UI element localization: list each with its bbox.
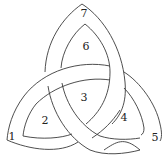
top-lobe-outer-left (45, 4, 82, 72)
region-label-7: 7 (81, 7, 88, 20)
region-label-6: 6 (83, 40, 90, 53)
region-label-5: 5 (152, 131, 159, 144)
region-label-1: 1 (9, 130, 16, 143)
knot-bands (7, 4, 162, 154)
top-lobe-inner-left (61, 24, 85, 68)
bottom-crossing-lower (104, 142, 140, 150)
region-label-4: 4 (121, 111, 128, 124)
region-label-3: 3 (81, 91, 88, 104)
top-lobe-inner-right (85, 24, 110, 124)
region-label-2: 2 (42, 114, 49, 127)
triquetra-diagram: 1 2 3 4 5 6 7 (0, 0, 165, 159)
